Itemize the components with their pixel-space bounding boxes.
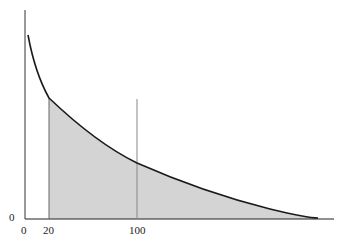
x-tick-20: 20 [43, 225, 54, 236]
x-tick-100: 100 [129, 225, 146, 236]
chart-canvas [0, 0, 343, 249]
y-tick-0: 0 [9, 212, 15, 223]
x-tick-0: 0 [21, 225, 27, 236]
shaded-area [49, 98, 318, 219]
